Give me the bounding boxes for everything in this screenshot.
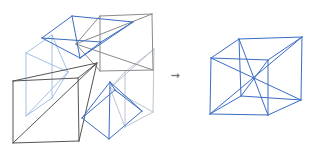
- left-face-pyramid: [26, 35, 68, 116]
- top-face-pyramid: [42, 16, 133, 58]
- squiggle-arrow-icon: ⇝: [164, 69, 186, 83]
- space-diagonals: [210, 37, 302, 115]
- right-cube-with-center-cone: [210, 37, 302, 115]
- cube-decomposition-diagram: [0, 0, 314, 153]
- back-face-pyramid: [76, 14, 153, 71]
- left-exploded-cube: [13, 14, 154, 143]
- figure-canvas: ⇝: [0, 0, 314, 153]
